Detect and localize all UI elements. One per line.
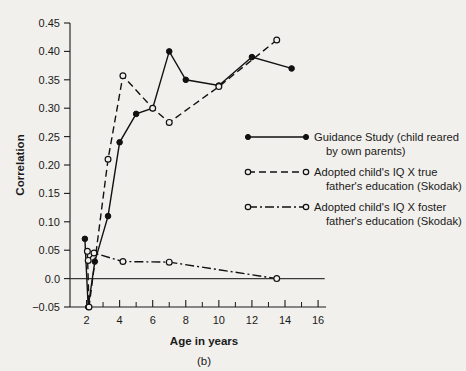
legend-marker (245, 134, 250, 139)
x-axis-title: Age in years (170, 335, 238, 347)
data-point (82, 236, 88, 242)
x-tick-label: 6 (150, 314, 156, 326)
y-tick-label: 0.20 (39, 159, 60, 171)
y-tick-label: 0.15 (39, 187, 60, 199)
data-point (117, 139, 123, 145)
y-tick-label: 0.10 (39, 216, 60, 228)
legend-marker (245, 204, 250, 209)
y-axis-title: Correlation (14, 134, 26, 195)
data-point (166, 49, 172, 55)
legend-marker (245, 169, 250, 174)
data-point (105, 213, 111, 219)
data-point (183, 77, 189, 83)
panel-label: (b) (197, 355, 211, 367)
data-point (105, 156, 111, 162)
legend-label-line1: Adopted child's IQ X true (314, 166, 437, 178)
y-tick-label: 0.30 (39, 102, 60, 114)
legend-label-line2: by own parents) (326, 145, 406, 157)
data-point (120, 259, 126, 265)
figure-panel-b: −0.050.00.050.100.150.200.250.300.350.40… (0, 0, 466, 371)
legend-label-line1: Adopted child's IQ X foster (314, 201, 446, 213)
x-tick-label: 16 (312, 314, 324, 326)
data-point (289, 66, 295, 72)
correlation-vs-age-chart: −0.050.00.050.100.150.200.250.300.350.40… (0, 0, 466, 371)
data-point (274, 37, 280, 43)
x-tick-label: 14 (279, 314, 291, 326)
legend-marker (303, 169, 308, 174)
y-tick-label: 0.35 (39, 74, 60, 86)
series-line-2 (88, 253, 277, 279)
data-point (133, 111, 139, 117)
y-tick-label: 0.40 (39, 45, 60, 57)
data-point (166, 259, 172, 265)
data-point (216, 84, 222, 90)
legend-marker (303, 134, 308, 139)
x-tick-label: 8 (183, 314, 189, 326)
legend-label-line2: father's education (Skodak) (326, 215, 462, 227)
legend-label-line2: father's education (Skodak) (326, 180, 462, 192)
data-point (274, 276, 280, 282)
data-point (120, 73, 126, 79)
data-point (85, 258, 91, 264)
x-tick-label: 2 (83, 314, 89, 326)
y-tick-label: 0.0 (45, 273, 60, 285)
y-tick-label: 0.25 (39, 131, 60, 143)
data-point (91, 250, 97, 256)
data-point (166, 120, 172, 126)
data-point (249, 54, 255, 60)
x-tick-label: 10 (213, 314, 225, 326)
legend-label-line1: Guidance Study (child reared (314, 131, 459, 143)
y-tick-label: 0.05 (39, 244, 60, 256)
x-tick-label: 4 (117, 314, 123, 326)
data-point (150, 105, 156, 111)
data-point (84, 248, 90, 254)
x-tick-label: 12 (246, 314, 258, 326)
y-tick-label: −0.05 (32, 301, 60, 313)
legend-marker (303, 204, 308, 209)
data-point (86, 304, 92, 310)
y-tick-label: 0.45 (39, 17, 60, 29)
series-line-0 (85, 51, 292, 307)
